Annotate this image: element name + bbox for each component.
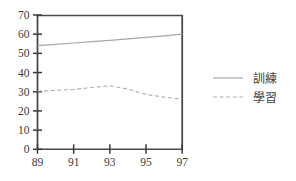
y-tick-label: 60	[18, 28, 30, 40]
y-tick-label: 50	[18, 47, 30, 59]
legend-label-1: 訓練	[253, 71, 277, 86]
legend-label-2: 學習	[253, 91, 277, 105]
plot-area-background	[37, 15, 183, 150]
y-tick-label: 0	[24, 143, 30, 155]
y-tick-label: 40	[18, 67, 30, 79]
x-tick-label: 95	[140, 156, 152, 168]
y-axis-tick-labels: 010203040506070	[18, 9, 30, 155]
y-tick-label: 30	[18, 86, 30, 98]
x-axis-tick-labels: 8991939597	[32, 156, 188, 168]
y-tick-label: 10	[18, 124, 30, 136]
x-tick-label: 91	[68, 156, 80, 168]
chart-legend: 訓練學習	[213, 71, 277, 105]
x-tick-label: 97	[176, 156, 188, 168]
line-chart: 010203040506070 8991939597 訓練學習	[0, 0, 296, 181]
y-tick-label: 20	[18, 105, 30, 117]
x-tick-label: 89	[32, 156, 44, 168]
y-tick-label: 70	[18, 9, 30, 21]
chart-figure: 010203040506070 8991939597 訓練學習	[0, 0, 296, 181]
x-tick-label: 93	[104, 156, 116, 168]
